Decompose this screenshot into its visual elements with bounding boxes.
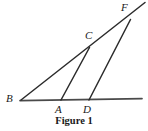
segment-ac bbox=[61, 48, 90, 101]
vertex-label-f: F bbox=[121, 2, 128, 13]
figure-caption: Figure 1 bbox=[0, 115, 148, 127]
vertex-label-d: D bbox=[83, 104, 91, 115]
geometry-drawing bbox=[0, 0, 148, 131]
vertex-label-c: C bbox=[85, 30, 92, 41]
baseline-segment bbox=[20, 99, 142, 101]
figure-1-container: B A D C F Figure 1 bbox=[0, 0, 148, 131]
segment-df bbox=[89, 20, 131, 101]
ray-bf-segment bbox=[21, 3, 145, 101]
vertex-label-b: B bbox=[6, 93, 13, 104]
vertex-label-a: A bbox=[55, 104, 62, 115]
